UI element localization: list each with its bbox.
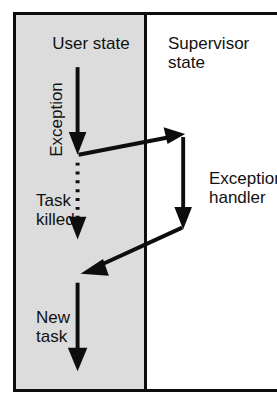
state-divider	[144, 15, 147, 389]
arrow-exception-handler-running	[174, 137, 192, 230]
state-transition-diagram: User state Supervisor state Exception Ta…	[13, 12, 277, 392]
new-task-label: New task	[36, 308, 96, 346]
user-state-title: User state	[36, 34, 146, 53]
task-killed-label: Task killed	[36, 191, 96, 229]
exception-label: Exception	[47, 72, 66, 168]
supervisor-state-title: Supervisor state	[168, 34, 277, 72]
exception-handler-label: Exception handler	[209, 169, 277, 207]
